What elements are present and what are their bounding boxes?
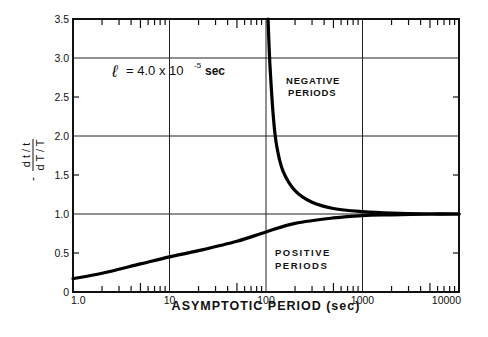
svg-text:PERIODS: PERIODS [288, 87, 336, 98]
y-axis-label: d t / t d T / T - [20, 139, 46, 181]
svg-text:PERIODS: PERIODS [275, 260, 328, 271]
grid-lines [73, 19, 459, 292]
x-tick-label: 10000 [432, 294, 461, 306]
y-tick-label: 3.0 [54, 52, 69, 64]
svg-text:ℓ: ℓ [111, 62, 118, 81]
svg-text:-5: -5 [194, 61, 202, 70]
positive-periods-label: POSITIVE PERIODS [275, 247, 331, 271]
svg-text:NEGATIVE: NEGATIVE [286, 75, 340, 86]
y-tick-label: 1.0 [54, 208, 69, 220]
negative-periods-curve [268, 19, 459, 214]
svg-text:d T / T: d T / T [34, 139, 46, 170]
y-tick-label: 2.0 [54, 130, 69, 142]
svg-text:POSITIVE: POSITIVE [275, 247, 331, 258]
svg-text:-: - [26, 177, 40, 181]
svg-text:= 4.0 x 10: = 4.0 x 10 [126, 63, 183, 78]
x-tick-label: 1.0 [71, 294, 86, 306]
parameter-annotation: ℓ = 4.0 x 10 -5 sec [111, 61, 225, 81]
x-axis-label: ASYMPTOTIC PERIOD (sec) [172, 299, 361, 313]
y-tick-labels: 00.51.01.52.02.53.03.5 [54, 13, 69, 298]
y-tick-label: 1.5 [54, 169, 69, 181]
svg-text:sec: sec [205, 64, 225, 78]
y-tick-label: 0 [63, 286, 69, 298]
chart: 00.51.01.52.02.53.03.5 1.010100100010000… [0, 0, 488, 337]
y-tick-label: 2.5 [54, 91, 69, 103]
negative-periods-label: NEGATIVE PERIODS [286, 75, 340, 98]
y-tick-label: 0.5 [54, 247, 69, 259]
y-tick-label: 3.5 [54, 13, 69, 25]
svg-text:d t / t: d t / t [20, 143, 32, 167]
